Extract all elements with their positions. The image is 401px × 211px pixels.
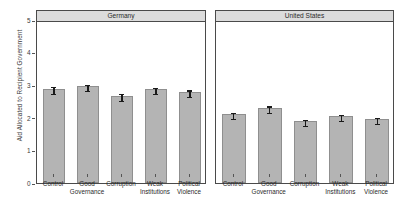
- error-bar-cap-upper: [187, 90, 192, 91]
- x-tick-label-line2: Violence: [342, 188, 401, 196]
- panel-germany: Germany: [36, 10, 206, 184]
- y-tick-label: 3: [27, 83, 31, 89]
- plot-area-germany: [36, 21, 206, 184]
- error-bar-cap-lower: [231, 119, 236, 120]
- x-tick-label-line2: Violence: [157, 188, 222, 196]
- error-bar-cap-upper: [267, 106, 272, 107]
- panel-header-germany: Germany: [36, 10, 206, 21]
- bar: [77, 86, 99, 183]
- bar: [111, 96, 133, 183]
- bar: [329, 116, 353, 183]
- bar: [179, 92, 201, 183]
- error-bar-cap-upper: [85, 85, 90, 86]
- error-bar-cap-lower: [85, 91, 90, 92]
- y-tick-mark: [32, 118, 35, 119]
- x-tick-label-line1: Political: [178, 180, 200, 187]
- bar: [258, 108, 282, 183]
- error-bar-cap-lower: [267, 113, 272, 114]
- y-tick-label: 1: [27, 148, 31, 154]
- chart-figure: Aid Allocated to Recipient Government 01…: [0, 0, 401, 211]
- x-axis-germany: ControlGoodGovernanceCorruptionWeakInsti…: [36, 174, 206, 204]
- bar-slot: [258, 22, 282, 183]
- error-bar-cap-upper: [231, 113, 236, 114]
- bar-slot: [111, 22, 133, 183]
- bar-slot: [365, 22, 389, 183]
- bar-slot: [294, 22, 318, 183]
- error-bar-cap-lower: [187, 97, 192, 98]
- bar-slot: [145, 22, 167, 183]
- bar: [222, 114, 246, 183]
- x-tick-label-line1: Political: [365, 180, 387, 187]
- error-bar-cap-lower: [339, 121, 344, 122]
- bar-group-united-states: [216, 22, 393, 183]
- bar: [43, 89, 65, 183]
- error-bar-cap-upper: [153, 88, 158, 89]
- error-bar-cap-upper: [119, 94, 124, 95]
- y-tick-mark: [32, 151, 35, 152]
- panel-title-united-states: United States: [285, 13, 325, 20]
- error-bar-cap-upper: [375, 118, 380, 119]
- panel-title-germany: Germany: [107, 13, 134, 20]
- y-tick-mark: [32, 53, 35, 54]
- error-bar-cap-lower: [375, 124, 380, 125]
- x-axis-united-states: ControlGoodGovernanceCorruptionWeakInsti…: [215, 174, 394, 204]
- y-tick-mark: [32, 86, 35, 87]
- bar: [145, 89, 167, 183]
- error-bar-cap-lower: [119, 101, 124, 102]
- error-bar-cap-lower: [303, 126, 308, 127]
- panel-header-united-states: United States: [215, 10, 394, 21]
- bar-slot: [77, 22, 99, 183]
- x-tick-label-line2: Governance: [55, 188, 120, 196]
- error-bar-cap-upper: [339, 115, 344, 116]
- bar-group-germany: [37, 22, 205, 183]
- x-tick-label-political-violence: PoliticalViolence: [342, 180, 401, 195]
- bar-slot: [179, 22, 201, 183]
- error-bar-cap-lower: [153, 94, 158, 95]
- bar-slot: [43, 22, 65, 183]
- error-bar-cap-upper: [51, 87, 56, 88]
- y-tick-label: 2: [27, 115, 31, 121]
- y-tick-mark: [32, 21, 35, 22]
- plot-area-united-states: [215, 21, 394, 184]
- y-tick-label: 4: [27, 50, 31, 56]
- bar-slot: [329, 22, 353, 183]
- error-bar-cap-upper: [303, 120, 308, 121]
- x-tick-label-line2: Governance: [235, 188, 303, 196]
- x-tick-labels-germany: ControlGoodGovernanceCorruptionWeakInsti…: [36, 177, 206, 201]
- y-tick-label: 5: [27, 18, 31, 24]
- bar-slot: [222, 22, 246, 183]
- x-tick-labels-united-states: ControlGoodGovernanceCorruptionWeakInsti…: [215, 177, 394, 201]
- panel-united-states: United States: [215, 10, 394, 184]
- error-bar-cap-lower: [51, 94, 56, 95]
